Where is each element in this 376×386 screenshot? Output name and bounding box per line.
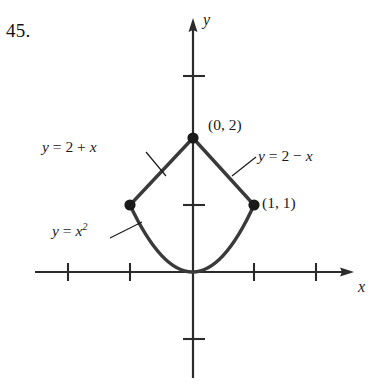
axes-group <box>35 18 354 378</box>
label-eq-right-x: x <box>306 147 313 164</box>
label-eq-left-x: x <box>90 138 97 155</box>
label-eq-left-y: y <box>42 138 49 155</box>
leader-line-left <box>146 152 166 176</box>
graph-figure <box>0 0 376 386</box>
label-eq-left-op: = 2 + <box>49 138 90 155</box>
point-1-1-dot <box>248 199 259 210</box>
label-axis-x: x <box>358 279 365 295</box>
y-axis-arrowhead <box>189 18 198 32</box>
x-axis-arrowhead <box>340 268 354 277</box>
label-equation-line-right: y = 2 − x <box>258 148 313 164</box>
label-eq-right-y: y <box>258 147 265 164</box>
label-point-0-2: (0, 2) <box>208 117 242 133</box>
leader-line-right <box>232 157 256 176</box>
label-eq-parab-y: y <box>52 222 59 239</box>
point-0-2-dot <box>187 132 198 143</box>
segment-line-right <box>193 138 254 205</box>
label-equation-line-left: y = 2 + x <box>42 139 97 155</box>
label-eq-parab-exponent: 2 <box>82 221 87 232</box>
label-eq-parab-op: = <box>59 222 76 239</box>
leader-lines-group <box>110 152 256 238</box>
problem-number: 45. <box>6 20 31 42</box>
label-axis-y: y <box>203 12 210 28</box>
label-eq-right-op: = 2 − <box>265 147 306 164</box>
label-point-1-1: (1, 1) <box>262 195 296 211</box>
point-neg1-1-dot <box>124 199 135 210</box>
leader-line-parabola <box>110 222 142 238</box>
label-equation-parabola: y = x2 <box>52 223 88 239</box>
